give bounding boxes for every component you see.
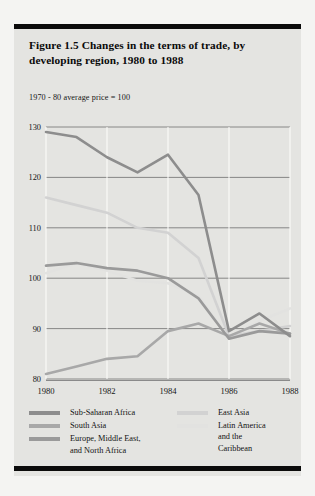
svg-text:1982: 1982 <box>98 386 115 396</box>
legend-item: Europe, Middle East, and North Africa <box>29 433 179 455</box>
legend-item: South Asia <box>29 420 179 431</box>
svg-text:1980: 1980 <box>37 386 54 396</box>
figure-page: Figure 1.5 Changes in the terms of trade… <box>0 0 315 496</box>
legend-item: East Asia <box>177 407 287 418</box>
svg-text:110: 110 <box>29 224 41 233</box>
y-tick-labels: 8090100110120130 <box>28 123 41 384</box>
svg-text:1988: 1988 <box>281 386 298 396</box>
svg-text:1986: 1986 <box>220 386 238 396</box>
legend-item: Latin America and the Caribbean <box>177 420 287 454</box>
legend-swatch <box>29 437 60 441</box>
svg-text:80: 80 <box>33 375 41 384</box>
svg-text:130: 130 <box>28 123 41 132</box>
svg-text:1984: 1984 <box>159 386 177 396</box>
legend-swatch <box>29 411 60 415</box>
svg-text:90: 90 <box>33 325 41 334</box>
x-tick-labels: 19801982198419861988 <box>37 386 298 396</box>
gridlines <box>46 127 290 381</box>
legend-swatch <box>177 424 208 428</box>
legend-label: South Asia <box>70 420 179 431</box>
legend-item: Sub-Saharan Africa <box>29 407 179 418</box>
legend-column-right: East AsiaLatin America and the Caribbean <box>177 407 287 456</box>
legend-column-left: Sub-Saharan AfricaSouth AsiaEurope, Midd… <box>29 407 179 458</box>
legend-label: Europe, Middle East, and North Africa <box>70 433 179 455</box>
legend-label: Latin America and the Caribbean <box>218 420 287 454</box>
svg-text:100: 100 <box>28 274 41 283</box>
legend-swatch <box>177 411 208 415</box>
legend-label: Sub-Saharan Africa <box>70 407 179 418</box>
legend-swatch <box>29 424 60 428</box>
svg-text:120: 120 <box>28 173 41 182</box>
legend-label: East Asia <box>218 407 287 418</box>
